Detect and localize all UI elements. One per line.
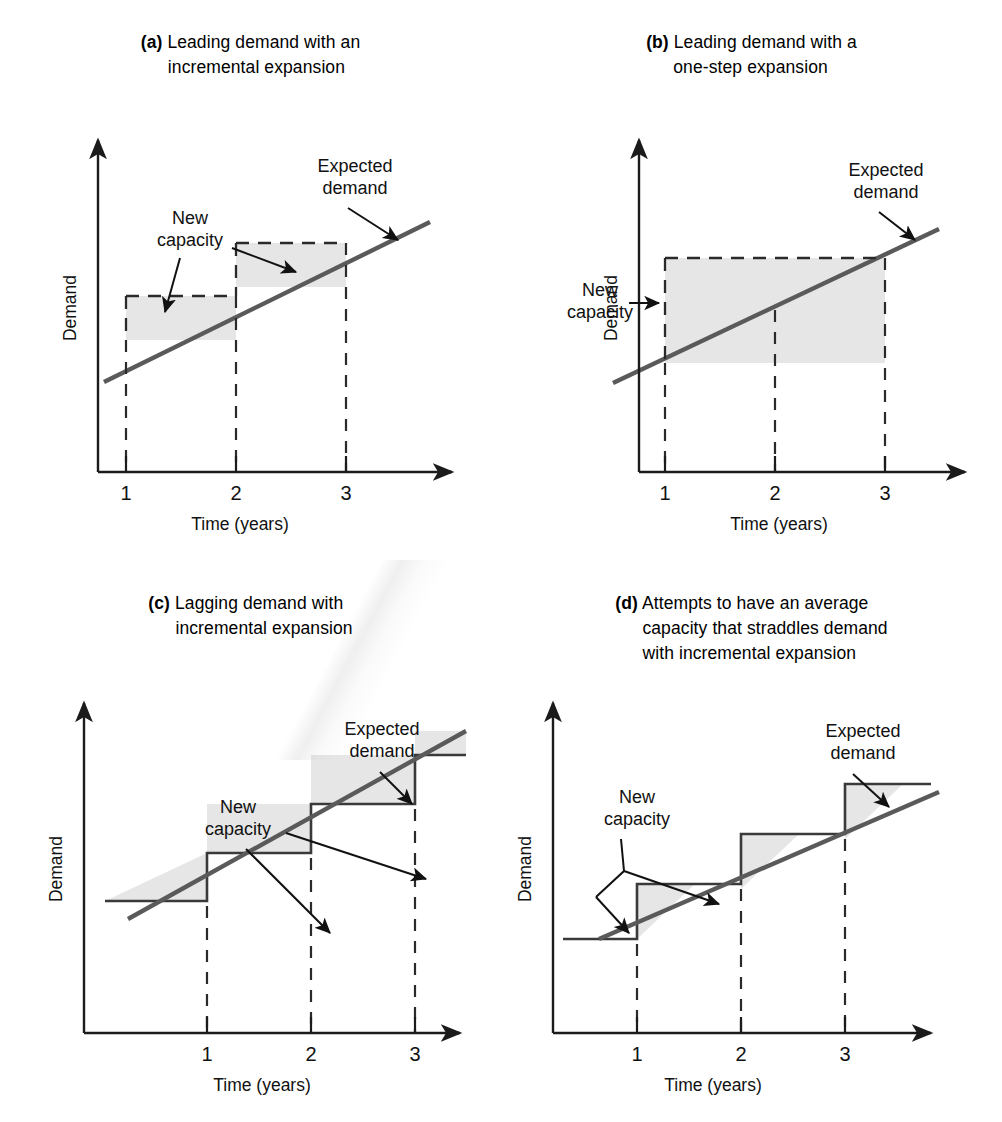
y-axis-label: Demand — [60, 275, 80, 341]
new-capacity-leader-arrow-1 — [286, 833, 426, 879]
x-axis-label: Time (years) — [664, 1075, 762, 1095]
x-tick-label-1: 1 — [120, 482, 131, 504]
x-tick-label-1: 1 — [631, 1043, 642, 1065]
x-tick-label-3: 3 — [340, 482, 351, 504]
expected-demand-leader-arrow — [879, 212, 915, 240]
expected-demand-label-line1: Expected — [317, 156, 392, 176]
panel-b: (b) Leading demand with a one-step expan… — [501, 0, 1002, 561]
x-axis-label: Time (years) — [213, 1075, 311, 1095]
y-axis-label: Demand — [46, 836, 66, 902]
expected-demand-label-line1: Expected — [344, 719, 419, 739]
new-capacity-label-line2: capacity — [157, 230, 223, 250]
panel-c: (c) Lagging demand with incremental expa… — [0, 561, 501, 1122]
new-capacity-label-line2: capacity — [205, 819, 271, 839]
x-tick-label-2: 2 — [305, 1043, 316, 1065]
panel-d-plot: 1 2 3 Time (years) Demand Expected deman… — [501, 561, 1002, 1122]
x-tick-label-3: 3 — [839, 1043, 850, 1065]
expected-demand-label-line1: Expected — [825, 721, 900, 741]
capacity-straddle-area-2 — [741, 834, 799, 889]
new-capacity-label-line1: New — [172, 208, 209, 228]
x-tick-label-2: 2 — [230, 482, 241, 504]
new-capacity-leader-arrow-2 — [596, 897, 629, 933]
new-capacity-label-line1: New — [619, 787, 656, 807]
panel-a-plot: 1 2 3 Time (years) Demand Expected deman… — [0, 0, 501, 561]
new-capacity-label-line1: New — [220, 797, 257, 817]
expected-demand-label-line2: demand — [853, 182, 918, 202]
new-capacity-label-line2: capacity — [567, 302, 633, 322]
panel-b-plot: 1 2 3 Time (years) Demand Expected deman… — [501, 0, 1002, 561]
figure-panel-grid: (a) Leading demand with an incremental e… — [0, 0, 1002, 1122]
expected-demand-label-line2: demand — [349, 741, 414, 761]
x-tick-label-2: 2 — [769, 482, 780, 504]
capacity-surplus-area-2 — [236, 243, 346, 287]
panel-c-plot: 1 2 3 Time (years) Demand Expected deman… — [0, 561, 501, 1122]
new-capacity-label-line2: capacity — [604, 809, 670, 829]
x-tick-label-3: 3 — [879, 482, 890, 504]
new-capacity-leader-arrow-2 — [246, 849, 330, 933]
x-tick-label-1: 1 — [201, 1043, 212, 1065]
capacity-surplus-area-1 — [126, 296, 236, 340]
x-tick-label-1: 1 — [659, 482, 670, 504]
capacity-shortfall-area-3 — [311, 755, 415, 804]
y-axis-label: Demand — [515, 836, 535, 902]
x-tick-label-3: 3 — [409, 1043, 420, 1065]
panel-a: (a) Leading demand with an incremental e… — [0, 0, 501, 561]
new-capacity-label-line1: New — [582, 280, 619, 300]
panel-d: (d) Attempts to have an average capacity… — [501, 561, 1002, 1122]
expected-demand-leader-arrow — [348, 208, 398, 240]
x-axis-label: Time (years) — [191, 514, 289, 534]
x-axis-label: Time (years) — [730, 514, 828, 534]
expected-demand-label-line1: Expected — [848, 160, 923, 180]
expected-demand-label-line2: demand — [322, 178, 387, 198]
expected-demand-line — [128, 731, 466, 919]
new-capacity-leader-bracket — [596, 839, 624, 897]
expected-demand-label-line2: demand — [830, 743, 895, 763]
x-tick-label-2: 2 — [735, 1043, 746, 1065]
capacity-shortfall-area-1 — [105, 853, 207, 901]
